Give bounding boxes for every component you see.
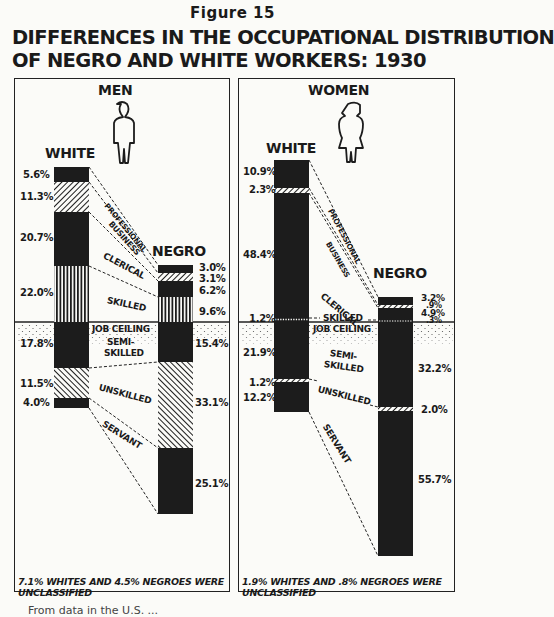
women-white-value: 10.9% (243, 166, 276, 177)
men-cat-semi: SEMI- (107, 337, 134, 347)
women-negro-value: 55.7% (418, 474, 451, 485)
men-negro-label: NEGRO (152, 243, 206, 259)
men-negro-value: 9.6% (199, 306, 226, 317)
men-negro-value: 3.1% (199, 273, 226, 284)
women-white-bar (274, 160, 309, 412)
women-white-value: 21.9% (243, 347, 276, 358)
men-negro-value: 3.0% (199, 262, 226, 273)
source-footer: From data in the U.S. ... (28, 604, 158, 617)
men-unclassified-note: 7.1% WHITES AND 4.5% NEGROES WERE UNCLAS… (18, 576, 224, 598)
men-white-value: 11.5% (20, 378, 53, 389)
women-cat-job-ceiling: JOB CEILING (313, 324, 371, 334)
man-figure-icon (114, 102, 134, 163)
men-negro-value: 6.2% (199, 285, 226, 296)
men-white-value: 4.0% (23, 397, 50, 408)
women-negro-value: 32.2% (418, 363, 451, 374)
woman-figure-icon (339, 103, 363, 162)
men-negro-value: 33.1% (195, 397, 228, 408)
women-cat-skilled: SKILLED (323, 313, 363, 323)
women-white-label: WHITE (266, 140, 316, 156)
women-negro-label: NEGRO (373, 265, 427, 281)
men-white-value: 17.8% (20, 338, 53, 349)
men-white-value: 20.7% (20, 232, 53, 243)
women-unclassified-note: 1.9% WHITES AND .8% NEGROES WERE UNCLASS… (242, 576, 442, 598)
women-negro-bar (378, 297, 413, 556)
men-white-label: WHITE (45, 145, 95, 161)
women-panel-title: WOMEN (308, 82, 369, 98)
women-white-value: 1.2% (249, 313, 276, 324)
men-panel-title: MEN (98, 82, 132, 98)
men-cat-job-ceiling: JOB CEILING (92, 324, 150, 334)
men-negro-bar (158, 265, 193, 514)
women-negro-value: .3% (426, 316, 442, 325)
men-white-value: 5.6% (23, 169, 50, 180)
men-white-value: 11.3% (20, 191, 53, 202)
men-negro-value: 25.1% (195, 478, 228, 489)
men-white-bar (54, 167, 89, 408)
men-negro-value: 15.4% (195, 338, 228, 349)
women-white-value: 2.3% (249, 184, 276, 195)
women-negro-value: 2.0% (421, 404, 448, 415)
women-white-value: 1.2% (249, 377, 276, 388)
men-white-value: 22.0% (20, 287, 53, 298)
men-cat-semi-skilled: SKILLED (104, 348, 144, 358)
women-white-value: 12.2% (243, 392, 276, 403)
women-white-value: 48.4% (243, 249, 276, 260)
